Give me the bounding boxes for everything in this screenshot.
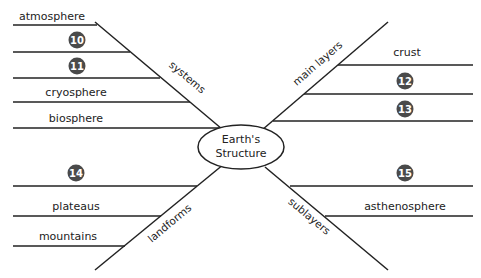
systems-item-biosphere: biosphere [49,112,104,125]
badge-number: 11 [70,61,84,72]
answer-badge-11: 11 [69,58,86,75]
branch-sublayers: 15 asthenosphere sublayers [265,165,473,271]
earth-structure-concept-map: atmosphere 10 11 cryosphere biosphere sy… [0,0,481,278]
landforms-item-plateaus: plateaus [52,200,100,213]
answer-badge-15: 15 [397,165,414,182]
systems-item-cryosphere: cryosphere [45,86,107,99]
answer-badge-13: 13 [397,101,414,118]
systems-spine [95,22,222,129]
answer-badge-10: 10 [69,32,86,49]
systems-item-atmosphere: atmosphere [19,10,85,23]
branch-label-systems: systems [167,58,208,95]
landforms-spine [95,164,224,270]
center-title-line-2: Structure [215,147,266,160]
center-node: Earth's Structure [198,125,284,169]
badge-number: 12 [398,76,412,87]
answer-badge-14: 14 [68,165,85,182]
answer-badge-12: 12 [397,73,414,90]
badge-number: 13 [398,104,412,115]
badge-number: 15 [398,168,412,179]
landforms-item-mountains: mountains [39,230,97,243]
branch-landforms: 14 plateaus mountains landforms [13,164,224,270]
main-layers-item-crust: crust [393,46,421,59]
branch-systems: atmosphere 10 11 cryosphere biosphere sy… [13,10,222,129]
main-layers-spine [262,22,388,130]
branch-main-layers: crust 12 13 main layers [262,22,473,130]
branch-label-main-layers: main layers [290,38,344,87]
badge-number: 10 [70,35,84,46]
badge-number: 14 [69,168,83,179]
sublayers-spine [265,167,388,270]
center-title-line-1: Earth's [222,133,261,146]
sublayers-item-asthenosphere: asthenosphere [364,200,446,213]
